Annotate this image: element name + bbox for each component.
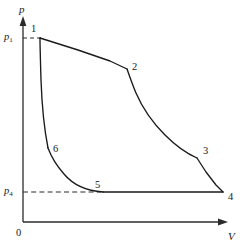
pressure-label-p1-subscript: 1 <box>9 36 13 44</box>
pv-diagram-figure: p V 0 p1 p4 1 2 3 4 5 6 <box>0 0 241 250</box>
state-point-label-4: 4 <box>228 192 233 203</box>
state-point-label-6: 6 <box>53 144 58 155</box>
x-axis-arrowhead <box>218 219 228 226</box>
pressure-label-p4-subscript: 4 <box>9 190 13 198</box>
origin-label: 0 <box>16 228 21 239</box>
y-axis-arrowhead <box>20 16 27 26</box>
process-segment-6-1 <box>40 38 48 148</box>
state-point-label-5: 5 <box>95 180 100 191</box>
process-segment-1-2 <box>40 38 127 69</box>
y-axis-label: p <box>19 4 25 15</box>
state-point-label-3: 3 <box>203 146 208 157</box>
state-point-label-1: 1 <box>31 24 36 35</box>
process-segment-2-3 <box>127 69 197 158</box>
pressure-label-p4: p4 <box>4 186 13 197</box>
x-axis-label: V <box>228 231 235 242</box>
process-segment-3-4 <box>197 158 223 192</box>
pressure-label-p1: p1 <box>4 32 13 43</box>
state-point-label-2: 2 <box>132 62 137 73</box>
pv-diagram-canvas <box>0 0 241 250</box>
